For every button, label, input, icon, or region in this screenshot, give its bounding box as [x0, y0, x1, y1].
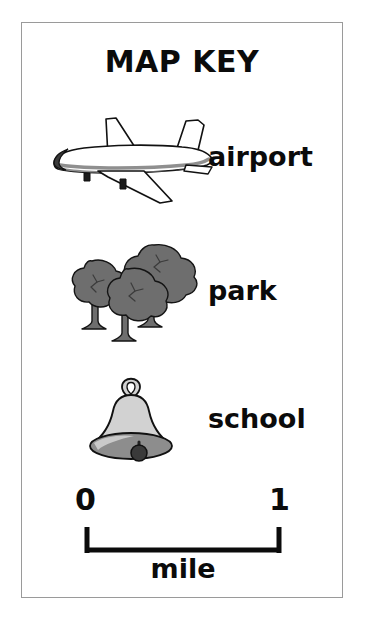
scale-endpoint-labels: 0 1 — [22, 485, 342, 521]
scale-bar: 0 1 mile — [22, 485, 342, 595]
legend-label-school: school — [208, 363, 306, 473]
legend-row-park: park — [22, 235, 342, 345]
legend-row-airport: airport — [22, 101, 342, 211]
page-title: MAP KEY — [22, 47, 342, 77]
scale-unit-label: mile — [86, 555, 280, 582]
legend-label-park: park — [208, 235, 277, 345]
scale-end-label: 1 — [269, 485, 290, 515]
legend-row-school: school — [22, 363, 342, 473]
trees-icon — [36, 235, 216, 345]
map-key-card: MAP KEY — [21, 22, 343, 598]
legend-label-airport: airport — [208, 101, 313, 211]
airplane-icon — [36, 101, 216, 211]
scale-ruler-graphic — [22, 523, 342, 555]
bell-icon — [36, 363, 216, 473]
scale-start-label: 0 — [75, 485, 96, 515]
